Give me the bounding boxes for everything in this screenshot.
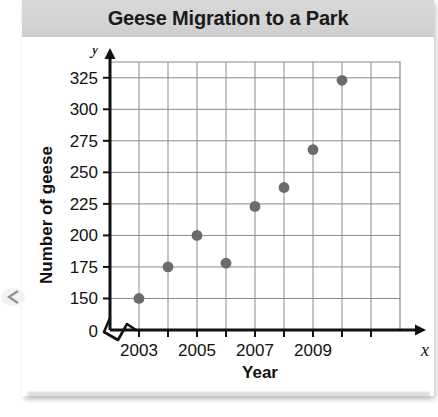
y-axis-title: Number of geese	[37, 105, 57, 325]
page-left-margin	[0, 0, 22, 417]
y-axis-arrowhead	[105, 48, 116, 59]
x-axis-variable-label: x	[420, 340, 429, 358]
y-axis-tick-label: 150	[70, 289, 98, 308]
x-axis-tick-label: 2003	[120, 341, 158, 358]
y-axis-tick-label: 200	[70, 226, 98, 245]
data-point	[308, 144, 319, 155]
data-point	[221, 258, 232, 269]
x-axis-arrowhead	[415, 325, 426, 336]
y-axis-tick-label: 325	[70, 69, 98, 88]
chart-screenshot: Geese Migration to a Park Number of gees…	[0, 0, 438, 417]
chart-title: Geese Migration to a Park	[22, 0, 434, 37]
x-axis-tick-label: 2005	[178, 341, 216, 358]
y-axis-tick-label: 275	[70, 132, 98, 151]
page-edge-arrow-icon	[0, 286, 26, 308]
x-axis-tick-label: 2009	[294, 341, 332, 358]
y-axis-tick-label: 250	[70, 163, 98, 182]
x-axis-tick-label: 2007	[236, 341, 274, 358]
data-point	[192, 230, 203, 241]
data-point	[163, 262, 174, 273]
y-axis-tick-label: 225	[70, 195, 98, 214]
data-point	[279, 182, 290, 193]
page-shadow	[28, 392, 430, 402]
y-axis-tick-label: 300	[70, 100, 98, 119]
y-axis-variable-label: y	[89, 48, 99, 58]
y-axis-tick-label: 175	[70, 258, 98, 277]
data-point	[250, 201, 261, 212]
data-point	[337, 75, 348, 86]
y-axis-tick-label: 0	[89, 322, 98, 341]
scatter-plot: 0150175200225250275300325200320052007200…	[60, 48, 430, 358]
data-point	[134, 293, 145, 304]
x-axis-title: Year	[110, 363, 410, 383]
